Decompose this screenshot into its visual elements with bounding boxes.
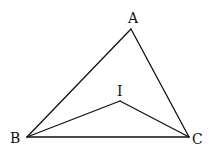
segment-ab	[27, 29, 131, 137]
label-a: A	[127, 10, 139, 26]
segments-group	[27, 29, 189, 137]
diagram-canvas: A B C I	[0, 0, 213, 155]
segment-ac	[131, 29, 189, 137]
label-i: I	[117, 83, 123, 99]
triangle-diagram: A B C I	[0, 0, 213, 155]
label-b: B	[10, 130, 20, 146]
segment-ib	[27, 101, 120, 137]
label-c: C	[192, 131, 203, 147]
